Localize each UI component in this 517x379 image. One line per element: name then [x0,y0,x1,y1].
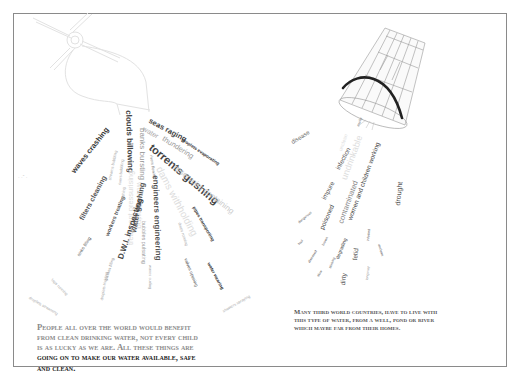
left-caption-line-3: is as lucky as we are. All these things … [37,342,277,352]
right-caption: Many third world countries, have to live… [294,308,494,331]
cloud-word: waves curling [148,265,152,289]
left-caption-line-4: going on to make our water available, sa… [37,352,277,362]
cloud-word: bubbles pulsating [141,221,147,264]
left-caption: People all over the world would benefit … [37,322,277,373]
left-caption-line-5: and clean. [37,363,277,373]
left-caption-line-1: People all over the world would benefit [37,322,277,332]
cloud-word: engineers engineering [151,175,162,261]
cloud-word: fetid [352,248,360,261]
scribble-mark: · ·ˇ · [18,175,27,180]
right-caption-line-2: this type of water, from a well, pond or… [294,316,494,324]
cloud-word: banks bursting [138,128,146,180]
left-caption-line-2: from clean drinking water, not every chi… [37,332,277,342]
right-caption-line-1: Many third world countries, have to live… [294,308,494,316]
right-caption-line-3: which maybe far from their homes. [294,324,494,332]
cloud-word: clouds billowing [124,110,134,173]
cloud-word: dirty [340,273,348,286]
